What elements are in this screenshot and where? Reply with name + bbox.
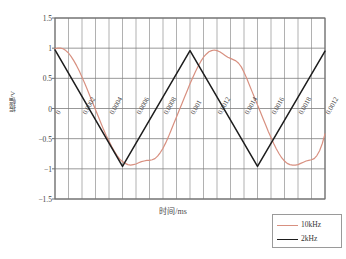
legend-swatch-10khz (277, 225, 298, 226)
x-tick-label: 0.0004 (108, 95, 124, 115)
chart-figure: 振幅/V 1.510.50−0.5−1−1.5 00.00020.00040.0… (0, 0, 346, 259)
x-tick-label: 0 (54, 109, 63, 116)
x-tick-label: 0.0012 (216, 95, 232, 115)
x-tick-label: 0.0014 (243, 95, 259, 115)
x-tick-label: 0.001 (189, 98, 204, 115)
x-tick-label: 0.0016 (270, 95, 286, 115)
legend-label-10khz: 10kHz (301, 221, 321, 229)
legend-label-2khz: 2kHz (301, 235, 317, 243)
x-tick-label: 0.0006 (135, 95, 151, 115)
x-tick-label: 0.0018 (297, 95, 313, 115)
legend-item: 2kHz (276, 232, 338, 246)
chart-legend: 10kHz 2kHz (272, 214, 342, 248)
x-tick-label: 0.0008 (162, 95, 178, 115)
x-tick-label: 0.0002 (81, 95, 97, 115)
x-tick-label: 0.0012 (324, 95, 340, 115)
legend-swatch-2khz (277, 239, 298, 240)
legend-item: 10kHz (276, 218, 338, 232)
